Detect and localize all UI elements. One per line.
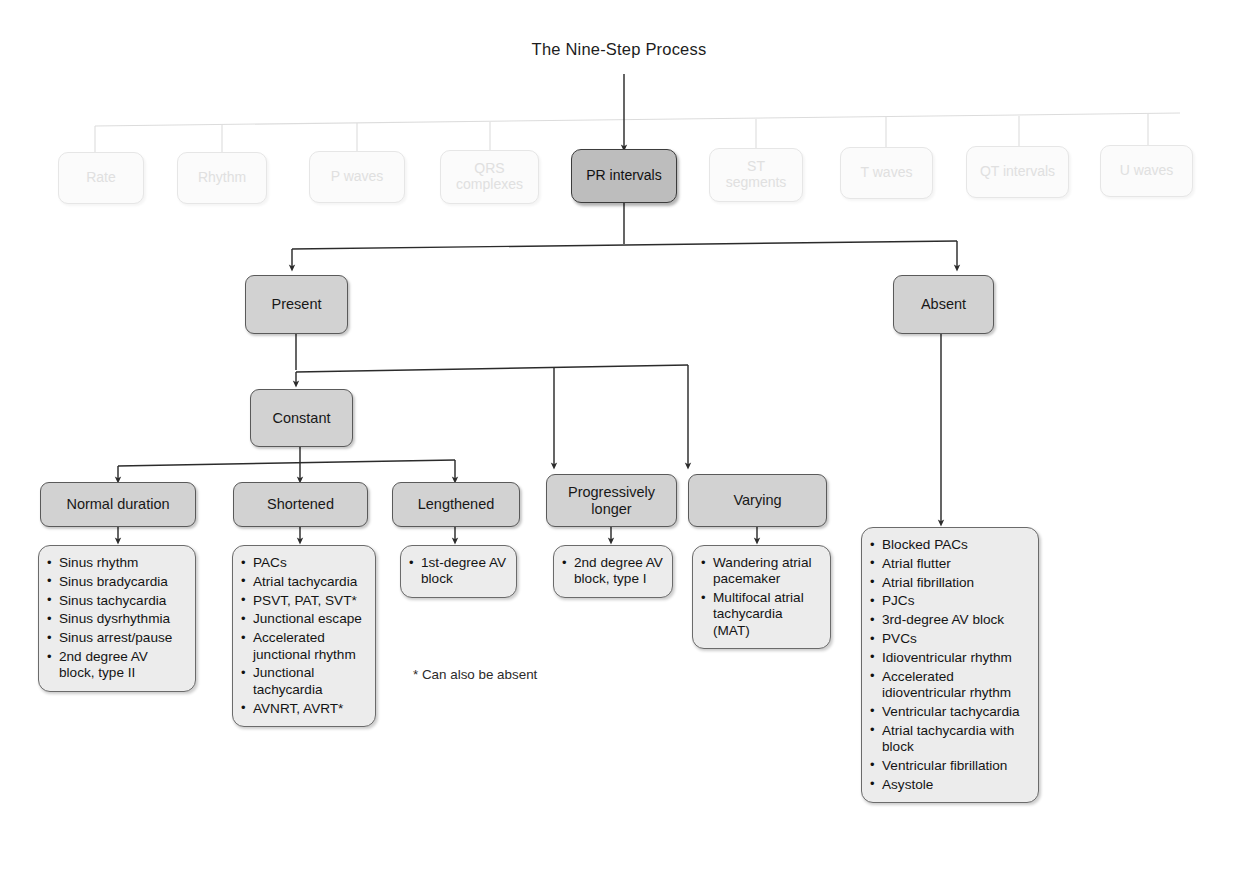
- node-absent[interactable]: Absent: [893, 275, 994, 334]
- list-item: Junctional tachycardia: [241, 665, 367, 698]
- list-item: Atrial tachycardia: [241, 574, 367, 590]
- list-item: 3rd-degree AV block: [870, 612, 1030, 628]
- node-normal-duration[interactable]: Normal duration: [40, 482, 196, 527]
- list-box-normal-duration: Sinus rhythm Sinus bradycardia Sinus tac…: [38, 545, 196, 692]
- list-item: AVNRT, AVRT*: [241, 701, 367, 717]
- list-box-shortened: PACs Atrial tachycardia PSVT, PAT, SVT* …: [232, 545, 376, 727]
- step-box-pr-intervals[interactable]: PR intervals: [571, 149, 677, 203]
- node-progressively-longer[interactable]: Progressively longer: [546, 474, 677, 527]
- list-box-lengthened: 1st-degree AV block: [400, 545, 517, 598]
- step-box-qt-intervals[interactable]: QT intervals: [966, 146, 1069, 198]
- step-label: P waves: [331, 169, 384, 185]
- list-item: Sinus dysrhythmia: [47, 611, 187, 627]
- step-box-st-segments[interactable]: ST segments: [709, 148, 803, 202]
- list-item: PSVT, PAT, SVT*: [241, 593, 367, 609]
- node-label: Constant: [272, 410, 330, 426]
- footnote: * Can also be absent: [413, 667, 537, 682]
- connector-lines: [0, 0, 1238, 893]
- node-label: Varying: [733, 492, 781, 508]
- node-varying[interactable]: Varying: [688, 474, 827, 527]
- list-normal-duration: Sinus rhythm Sinus bradycardia Sinus tac…: [47, 555, 187, 682]
- list-progressively-longer: 2nd degree AV block, type I: [562, 555, 664, 588]
- step-box-rate[interactable]: Rate: [58, 152, 144, 204]
- step-box-p-waves[interactable]: P waves: [309, 151, 405, 203]
- list-item: 2nd degree AV block, type I: [562, 555, 664, 588]
- node-label: Present: [272, 296, 322, 312]
- step-label: QT intervals: [980, 164, 1055, 180]
- step-label: T waves: [861, 165, 913, 181]
- step-box-qrs-complexes[interactable]: QRS complexes: [440, 150, 539, 204]
- list-item: Sinus bradycardia: [47, 574, 187, 590]
- node-lengthened[interactable]: Lengthened: [392, 482, 520, 527]
- step-label: Rhythm: [198, 170, 246, 186]
- list-item: Junctional escape: [241, 611, 367, 627]
- step-box-rhythm[interactable]: Rhythm: [177, 152, 267, 204]
- step-label: U waves: [1120, 163, 1174, 179]
- list-box-progressively-longer: 2nd degree AV block, type I: [553, 545, 673, 598]
- list-item: Atrial flutter: [870, 556, 1030, 572]
- flowchart-canvas: The Nine-Step Process Rate Rhythm P wave…: [0, 0, 1238, 893]
- step-label: Rate: [86, 170, 116, 186]
- list-item: Accelerated junctional rhythm: [241, 630, 367, 663]
- list-item: PACs: [241, 555, 367, 571]
- list-item: Asystole: [870, 777, 1030, 793]
- list-item: 1st-degree AV block: [409, 555, 508, 588]
- list-item: Ventricular fibrillation: [870, 758, 1030, 774]
- list-absent: Blocked PACs Atrial flutter Atrial fibri…: [870, 537, 1030, 793]
- list-item: Atrial fibrillation: [870, 575, 1030, 591]
- list-item: Sinus arrest/pause: [47, 630, 187, 646]
- node-shortened[interactable]: Shortened: [233, 482, 368, 527]
- list-box-absent: Blocked PACs Atrial flutter Atrial fibri…: [861, 527, 1039, 803]
- page-title: The Nine-Step Process: [0, 40, 1238, 59]
- list-item: Blocked PACs: [870, 537, 1030, 553]
- node-present[interactable]: Present: [245, 275, 348, 334]
- list-item: Accelerated idioventricular rhythm: [870, 669, 1030, 702]
- step-label: PR intervals: [586, 168, 661, 184]
- step-label: ST segments: [715, 159, 797, 190]
- list-item: Idioventricular rhythm: [870, 650, 1030, 666]
- node-label: Progressively longer: [552, 484, 671, 516]
- list-box-varying: Wandering atrial pacemaker Multifocal at…: [692, 545, 831, 649]
- list-item: 2nd degree AV block, type II: [47, 649, 187, 682]
- list-lengthened: 1st-degree AV block: [409, 555, 508, 588]
- list-item: Sinus tachycardia: [47, 593, 187, 609]
- list-varying: Wandering atrial pacemaker Multifocal at…: [701, 555, 822, 639]
- list-item: Atrial tachycardia with block: [870, 723, 1030, 756]
- step-box-u-waves[interactable]: U waves: [1100, 145, 1193, 197]
- step-box-t-waves[interactable]: T waves: [840, 147, 933, 199]
- list-item: PVCs: [870, 631, 1030, 647]
- list-item: PJCs: [870, 593, 1030, 609]
- node-label: Normal duration: [66, 496, 169, 512]
- node-label: Shortened: [267, 496, 334, 512]
- list-item: Sinus rhythm: [47, 555, 187, 571]
- list-item: Ventricular tachycardia: [870, 704, 1030, 720]
- node-label: Lengthened: [418, 496, 495, 512]
- node-label: Absent: [921, 296, 966, 312]
- node-constant[interactable]: Constant: [250, 389, 353, 447]
- list-item: Multifocal atrial tachycardia (MAT): [701, 590, 822, 639]
- list-shortened: PACs Atrial tachycardia PSVT, PAT, SVT* …: [241, 555, 367, 717]
- list-item: Wandering atrial pacemaker: [701, 555, 822, 588]
- step-label: QRS complexes: [446, 161, 533, 192]
